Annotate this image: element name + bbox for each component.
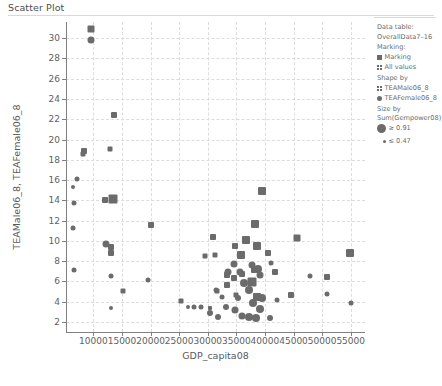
data-point-female[interactable] [231,306,238,313]
x-axis-tick-labels: 1000015000200002500030000350004000045000… [66,336,366,350]
data-point-male[interactable] [272,269,278,275]
data-point-female[interactable] [231,261,238,268]
data-point-male[interactable] [108,250,114,256]
gridline-vertical [236,22,237,332]
legend-item-label: ≥ 0.91 [389,123,411,133]
data-point-female[interactable] [192,304,197,309]
data-point-male[interactable] [288,292,294,298]
y-axis-line [66,22,67,332]
legend-panel[interactable]: Data table: OverallData7–16 Marking: Mar… [374,17,442,157]
data-point-female[interactable] [71,225,76,230]
data-point-male[interactable] [346,249,354,257]
gridline-vertical [122,22,123,332]
gridline-horizontal [66,140,365,141]
x-axis-tick-label: 20000 [136,336,165,346]
data-point-male[interactable] [203,254,208,259]
x-axis-tick-label: 40000 [251,336,280,346]
data-point-female[interactable] [72,201,77,206]
x-axis-tick-label: 25000 [165,336,194,346]
data-point-male[interactable] [265,250,271,256]
x-axis-tick-label: 35000 [222,336,251,346]
x-axis-tick-label: 10000 [79,336,108,346]
legend-data-table-value[interactable]: OverallData7–16 [377,32,432,42]
legend-marking-label: Marking: [377,42,406,52]
y-axis-tick-label: 26 [49,74,60,84]
data-point-female[interactable] [245,286,253,294]
data-point-male[interactable] [242,236,250,244]
data-point-female[interactable] [267,315,273,321]
legend-size-by-value[interactable]: Sum(Gempower08) [377,113,441,123]
legend-item-teamale[interactable]: TEAMale06_8 [377,83,429,93]
y-axis-tick-label: 18 [49,155,60,165]
data-point-female[interactable] [237,269,244,276]
data-point-female[interactable] [256,305,264,313]
data-point-male[interactable] [111,112,117,118]
data-point-female[interactable] [308,274,313,279]
data-point-female[interactable] [268,261,273,266]
y-axis-tick [62,261,66,262]
y-axis-tick [62,281,66,282]
data-point-male[interactable] [178,298,183,303]
gridline-vertical [322,22,323,332]
data-point-female[interactable] [109,274,114,279]
data-point-female[interactable] [109,306,113,310]
data-point-female[interactable] [348,300,353,305]
legend-item-size-small[interactable]: ≤ 0.47 [383,136,411,146]
y-axis-tick [62,241,66,242]
data-point-male[interactable] [88,26,95,33]
data-point-male[interactable] [102,197,108,203]
data-point-female[interactable] [103,240,110,247]
data-point-male[interactable] [251,220,259,228]
data-point-female[interactable] [219,294,224,299]
data-point-female[interactable] [225,269,232,276]
data-point-male[interactable] [293,234,300,241]
data-point-male[interactable] [258,187,266,195]
y-axis-tick-label: 24 [49,94,60,104]
data-point-male[interactable] [324,274,330,280]
data-point-female[interactable] [274,297,279,302]
data-point-female[interactable] [235,295,241,301]
legend-item-marking[interactable]: Marking [377,52,411,62]
data-point-male[interactable] [108,146,113,151]
data-point-male[interactable] [213,253,218,258]
plot-area[interactable] [66,22,365,332]
data-point-female[interactable] [72,268,77,273]
data-point-male[interactable] [81,151,86,156]
data-point-female[interactable] [252,314,260,322]
data-point-male[interactable] [231,275,237,281]
gridline-vertical [93,22,94,332]
plot-background [66,22,365,332]
data-point-female[interactable] [213,288,218,293]
gridline-vertical [208,22,209,332]
y-axis-tick [62,322,66,323]
data-point-male[interactable] [148,222,154,228]
data-point-female[interactable] [223,304,229,310]
data-point-female[interactable] [258,294,266,302]
data-point-female[interactable] [324,291,329,296]
data-point-female[interactable] [198,304,203,309]
data-point-female[interactable] [257,272,264,279]
data-point-female[interactable] [88,37,95,44]
data-point-female[interactable] [75,177,80,182]
data-point-female[interactable] [207,310,213,316]
data-point-female[interactable] [239,312,246,319]
data-point-female[interactable] [215,314,221,320]
circle-swatch-icon [377,96,382,101]
x-axis-title: GDP_capita08 [66,350,365,361]
data-point-male[interactable] [108,195,117,204]
y-axis-tick-label: 4 [54,297,60,307]
data-point-female[interactable] [71,185,75,189]
data-point-male[interactable] [224,282,230,288]
legend-item-teafemale[interactable]: TEAFemale06_8 [377,93,437,103]
x-axis-tick-label: 50000 [308,336,337,346]
data-point-female[interactable] [186,305,190,309]
data-point-male[interactable] [232,243,238,249]
legend-item-size-large[interactable]: ≥ 0.91 [377,123,411,133]
data-point-male[interactable] [253,242,261,250]
data-point-male[interactable] [210,234,216,240]
y-axis-tick [62,119,66,120]
data-point-male[interactable] [237,251,245,259]
data-point-male[interactable] [120,289,125,294]
data-point-female[interactable] [146,278,151,283]
legend-item-all-values[interactable]: All values [377,62,416,72]
